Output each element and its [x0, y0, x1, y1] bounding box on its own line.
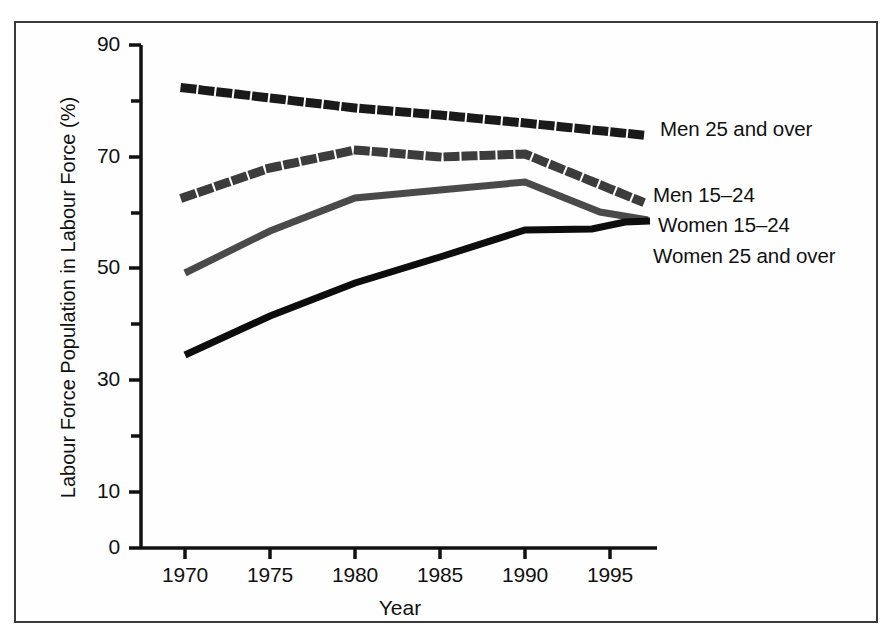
figure-container: 90 70 50 30 10 0 1970 1975 1980 1985 199…: [0, 0, 892, 638]
y-tick-label-0: 0: [72, 535, 120, 559]
x-tick-label-1975: 1975: [230, 563, 310, 587]
series-label-women-25-and-over: Women 25 and over: [653, 244, 836, 268]
series-line-men-25-and-over: [185, 88, 642, 135]
x-tick-label-1995: 1995: [570, 563, 650, 587]
series-label-men-25-and-over: Men 25 and over: [660, 117, 812, 141]
line-chart-plot: [0, 0, 892, 638]
y-tick-label-90: 90: [72, 32, 120, 56]
x-axis-title: Year: [300, 596, 500, 620]
y-axis-title: Labour Force Population in Labour Force …: [57, 78, 80, 518]
series-label-men-15-24: Men 15–24: [653, 183, 755, 207]
x-tick-label-1970: 1970: [145, 563, 225, 587]
x-tick-label-1990: 1990: [485, 563, 565, 587]
y-major-ticks: [129, 45, 141, 548]
x-tick-label-1980: 1980: [315, 563, 395, 587]
x-tick-label-1985: 1985: [400, 563, 480, 587]
series-label-women-15-24: Women 15–24: [658, 213, 790, 237]
